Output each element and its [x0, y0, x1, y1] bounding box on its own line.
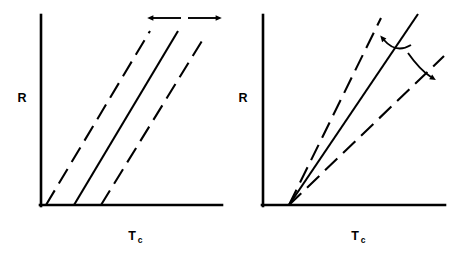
- left-nominal-line: [74, 31, 178, 205]
- arrow-rotate-clockwise: [408, 53, 431, 77]
- panel-left-translation: R T c: [17, 15, 222, 245]
- right-x-axis-label-subscript: c: [361, 235, 366, 245]
- right-y-axis-label-group: R: [238, 91, 247, 105]
- right-nominal-line: [289, 14, 418, 205]
- panel-right-rotation: R T c: [238, 14, 445, 245]
- right-steep-bound-line: [289, 18, 381, 205]
- figure-canvas: R T c R: [0, 0, 455, 257]
- left-y-axis-label-group: R: [17, 91, 26, 105]
- left-y-axis-label: R: [17, 91, 26, 105]
- left-x-axis-label-subscript: c: [138, 235, 143, 245]
- left-lower-bound-line: [46, 31, 150, 205]
- left-upper-bound-line: [101, 36, 205, 205]
- right-x-axis-label: T: [351, 229, 359, 243]
- right-x-axis-label-group: T c: [351, 229, 365, 245]
- right-shallow-bound-line: [289, 56, 444, 205]
- figure-root: R T c R: [0, 0, 455, 257]
- right-curves: [289, 14, 444, 205]
- right-rotation-arrows: [384, 40, 431, 77]
- left-x-axis-label: T: [128, 229, 136, 243]
- left-curves: [46, 31, 205, 205]
- left-x-axis-label-group: T c: [128, 229, 142, 245]
- right-y-axis-label: R: [238, 91, 247, 105]
